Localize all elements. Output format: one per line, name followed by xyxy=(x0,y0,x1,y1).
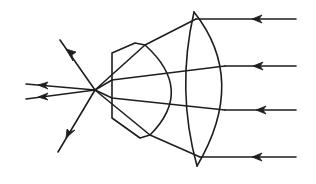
hexagonal-lens xyxy=(112,43,171,138)
refracted-ray-2 xyxy=(95,66,225,90)
refracted-rays xyxy=(95,19,225,157)
arrow-up-left-icon xyxy=(66,49,76,61)
outgoing-ray-upper-left xyxy=(60,40,95,90)
outgoing-ray-left-upper xyxy=(26,84,95,90)
refracted-ray-3 xyxy=(95,90,225,110)
biconvex-lens-right-surface xyxy=(194,12,222,166)
diagram-canvas xyxy=(0,0,316,184)
biconvex-lens xyxy=(186,12,222,166)
refracted-ray-4 xyxy=(95,90,200,157)
hexagonal-lens-convex-surface xyxy=(145,45,171,135)
outgoing-ray-left-lower xyxy=(26,90,95,99)
biconvex-lens-left-surface xyxy=(186,12,197,166)
outgoing-rays xyxy=(26,40,95,152)
refracted-ray-1 xyxy=(95,19,196,90)
outgoing-ray-lower-left xyxy=(58,90,95,152)
